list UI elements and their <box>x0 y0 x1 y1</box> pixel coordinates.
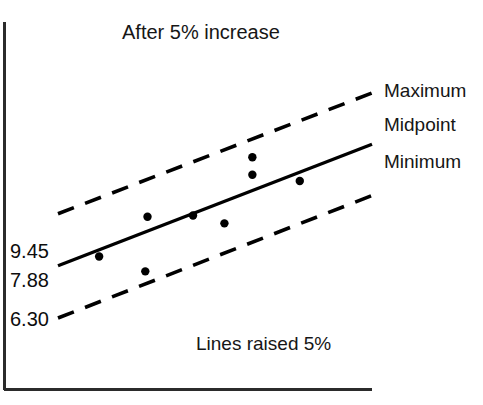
data-point <box>189 211 197 219</box>
data-point <box>143 213 151 221</box>
legend-item-midpoint: Midpoint <box>384 115 456 134</box>
data-point <box>141 267 149 275</box>
x-axis-caption: Lines raised 5% <box>196 334 331 353</box>
chart-title: After 5% increase <box>122 22 280 42</box>
y-axis-tick-label: 9.45 <box>10 241 49 261</box>
data-point <box>95 252 103 260</box>
data-point <box>248 153 256 161</box>
legend-item-minimum: Minimum <box>384 152 461 171</box>
y-axis-tick-label: 6.30 <box>10 309 49 329</box>
y-axis-tick-label: 7.88 <box>10 270 49 290</box>
data-point <box>296 177 304 185</box>
chart-container: After 5% increase Lines raised 5% 9.45 7… <box>0 0 483 405</box>
trend-lines-group <box>58 93 372 318</box>
trend-line-maximum <box>58 93 372 214</box>
trend-line-minimum <box>58 196 372 318</box>
data-point <box>248 171 256 179</box>
trend-line-midpoint <box>58 144 372 265</box>
data-points-group <box>95 153 304 276</box>
legend-item-maximum: Maximum <box>384 81 466 100</box>
data-point <box>220 219 228 227</box>
